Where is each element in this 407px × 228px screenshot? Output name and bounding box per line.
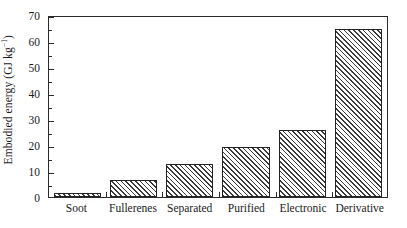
x-axis-tick-mark [332, 192, 333, 197]
y-axis-tick-mark [49, 147, 54, 148]
x-axis-tick-label: Purified [218, 200, 275, 220]
y-axis-tick-mark [49, 17, 54, 18]
y-axis-tick-label: 40 [29, 88, 41, 100]
y-axis-tick-label: 50 [29, 62, 41, 74]
x-axis-tick-labels: SootFullerenesSeparatedPurifiedElectroni… [48, 200, 388, 220]
bar-slot [105, 17, 161, 197]
y-axis-tick-labels: 010203040506070 [18, 16, 44, 198]
x-axis-tick-mark [162, 192, 163, 197]
plot-area [48, 16, 388, 198]
y-axis-tick-label: 10 [29, 166, 41, 178]
y-axis-title: Embodied energy (GJ kg−1) [0, 0, 18, 200]
bar-slot [274, 17, 330, 197]
x-axis-tick-label: Electronic [275, 200, 332, 220]
y-axis-title-suffix: ) [2, 35, 14, 39]
y-axis-tick-mark [49, 173, 54, 174]
x-axis-tick-label: Separated [161, 200, 218, 220]
y-axis-title-text: Embodied energy (GJ kg−1) [3, 35, 15, 164]
y-axis-tick-label: 20 [29, 140, 41, 152]
y-axis-tick-label: 0 [34, 192, 40, 204]
y-axis-tick-mark [49, 43, 54, 44]
bar-slot [331, 17, 387, 197]
y-axis-tick-mark [49, 69, 54, 70]
y-axis-title-superscript: −1 [0, 39, 9, 47]
bar-soot[interactable] [54, 193, 101, 197]
y-axis-minor-tick-mark [49, 108, 52, 109]
bar-slot [49, 17, 105, 197]
x-axis-tick-mark [106, 192, 107, 197]
bar-purified[interactable] [222, 147, 269, 197]
y-axis-minor-tick-mark [49, 82, 52, 83]
x-axis-tick-mark [276, 192, 277, 197]
y-axis-minor-tick-mark [49, 160, 52, 161]
y-axis-minor-tick-mark [49, 56, 52, 57]
y-axis-tick-label: 30 [29, 114, 41, 126]
bar-electronic[interactable] [279, 130, 326, 197]
y-axis-tick-label: 70 [29, 10, 41, 22]
x-axis-tick-label: Soot [48, 200, 105, 220]
bar-derivative[interactable] [335, 29, 382, 197]
y-axis-minor-tick-mark [49, 186, 52, 187]
bar-series [49, 17, 387, 197]
y-axis-minor-tick-mark [49, 30, 52, 31]
y-axis-tick-mark [49, 95, 54, 96]
bar-slot [162, 17, 218, 197]
bar-slot [218, 17, 274, 197]
y-axis-tick-mark [49, 121, 54, 122]
y-axis-minor-tick-mark [49, 134, 52, 135]
y-axis-title-main: Embodied energy (GJ kg [2, 47, 14, 164]
x-axis-tick-mark [219, 192, 220, 197]
x-axis-tick-label: Derivative [331, 200, 388, 220]
x-axis-tick-label: Fullerenes [105, 200, 162, 220]
y-axis-tick-label: 60 [29, 36, 41, 48]
bar-fullerenes[interactable] [110, 180, 157, 197]
bar-separated[interactable] [166, 164, 213, 197]
bar-chart-figure: Embodied energy (GJ kg−1) 01020304050607… [0, 0, 407, 228]
